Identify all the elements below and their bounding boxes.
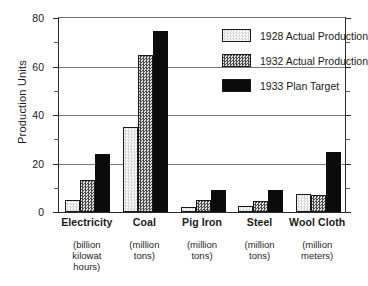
bar-electricity-1932	[80, 180, 95, 212]
legend: 1928 Actual Production 1932 Actual Produ…	[222, 29, 368, 92]
legend-item-1933: 1933 Plan Target	[222, 79, 368, 92]
x-axis-labels: Electricity(billionkilowathours)Coal(mil…	[58, 216, 346, 286]
bar-pig-iron-1928	[181, 207, 196, 212]
x-label-unit-line: kilowat	[58, 250, 116, 261]
legend-item-1932: 1932 Actual Production	[222, 54, 368, 67]
bar-pig-iron-1933	[211, 190, 226, 212]
bar-steel-1928	[238, 206, 253, 212]
y-tick-label-0: 0	[38, 206, 44, 218]
y-tick-0: 0	[53, 212, 59, 213]
y-axis-title: Production Units	[16, 32, 28, 172]
x-label-group-steel: Steel(milliontons)	[231, 216, 289, 261]
y-minor-tick-right-10	[345, 188, 350, 189]
y-tick-label-40: 40	[32, 109, 44, 121]
bar-coal-1928	[123, 127, 138, 212]
x-label-group-wool-cloth: Wool Cloth(millionmeters)	[288, 216, 346, 261]
x-label-name: Coal	[116, 216, 174, 228]
legend-swatch-1928	[222, 29, 251, 42]
y-tick-label-80: 80	[32, 12, 44, 24]
y-tick-right-40	[345, 115, 351, 116]
bar-steel-1933	[268, 190, 283, 212]
x-label-unit-line: (million	[173, 239, 231, 250]
x-label-name: Wool Cloth	[288, 216, 346, 228]
y-tick-right-80	[345, 18, 351, 19]
x-label-unit-line: tons)	[173, 250, 231, 261]
x-label-unit: (millionmeters)	[288, 239, 346, 261]
x-label-unit-line: hours)	[58, 261, 116, 272]
legend-swatch-1932	[222, 54, 251, 67]
x-label-unit-line: (million	[116, 239, 174, 250]
y-tick-right-20	[345, 164, 351, 165]
x-label-name: Pig Iron	[173, 216, 231, 228]
legend-swatch-1933	[222, 79, 251, 92]
bar-wool-cloth-1932	[311, 195, 326, 212]
x-label-unit-line: (million	[231, 239, 289, 250]
y-tick-label-60: 60	[32, 61, 44, 73]
bar-coal-1933	[153, 31, 168, 212]
bar-coal-1932	[138, 55, 153, 212]
legend-label-1932: 1932 Actual Production	[260, 55, 368, 67]
bar-wool-cloth-1928	[296, 194, 311, 212]
bar-wool-cloth-1933	[326, 152, 341, 212]
x-label-group-electricity: Electricity(billionkilowathours)	[58, 216, 116, 272]
bar-electricity-1933	[95, 154, 110, 212]
x-label-unit: (billionkilowathours)	[58, 239, 116, 272]
x-label-unit: (milliontons)	[173, 239, 231, 261]
y-minor-tick-right-30	[345, 139, 350, 140]
x-label-unit: (milliontons)	[116, 239, 174, 261]
legend-label-1928: 1928 Actual Production	[260, 30, 368, 42]
bar-pig-iron-1932	[196, 200, 211, 212]
legend-label-1933: 1933 Plan Target	[260, 80, 339, 92]
bar-electricity-1928	[65, 200, 80, 212]
x-label-unit: (milliontons)	[231, 239, 289, 261]
x-label-unit-line: (million	[288, 239, 346, 250]
y-tick-right-0	[345, 212, 351, 213]
x-label-name: Steel	[231, 216, 289, 228]
x-label-unit-line: meters)	[288, 250, 346, 261]
x-label-group-pig-iron: Pig Iron(milliontons)	[173, 216, 231, 261]
bar-steel-1932	[253, 201, 268, 212]
legend-item-1928: 1928 Actual Production	[222, 29, 368, 42]
x-label-unit-line: tons)	[116, 250, 174, 261]
x-label-name: Electricity	[58, 216, 116, 228]
x-label-unit-line: (billion	[58, 239, 116, 250]
y-tick-label-20: 20	[32, 158, 44, 170]
x-label-unit-line: tons)	[231, 250, 289, 261]
x-label-group-coal: Coal(milliontons)	[116, 216, 174, 261]
